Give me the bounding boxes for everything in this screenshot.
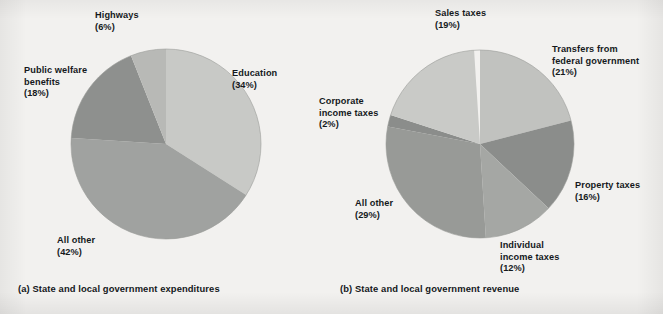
label-public-welfare-pct: (18%) (24, 88, 87, 100)
label-highways-pct: (6%) (95, 22, 139, 34)
label-public-welfare-name-line1: Public welfare (24, 65, 87, 77)
label-individual-name-line2: income taxes (500, 252, 559, 264)
caption-panel-b: (b) State and local government revenue (340, 283, 519, 294)
label-transfers-pct: (21%) (552, 67, 639, 79)
label-all-other-expenditures: All other (42%) (57, 235, 95, 258)
label-property-taxes: Property taxes (16%) (575, 180, 640, 203)
label-property-taxes-name: Property taxes (575, 180, 640, 192)
pie-svg-revenue (385, 49, 575, 239)
label-sales-taxes-pct: (19%) (435, 20, 486, 32)
label-corporate-name-line1: Corporate (319, 96, 378, 108)
label-transfers-federal-government: Transfers from federal government (21%) (552, 44, 639, 79)
label-corporate-pct: (2%) (319, 119, 378, 131)
label-corporate-income-taxes: Corporate income taxes (2%) (319, 96, 378, 131)
label-individual-pct: (12%) (500, 263, 559, 275)
label-corporate-name-line2: income taxes (319, 108, 378, 120)
label-sales-taxes: Sales taxes (19%) (435, 8, 486, 31)
panel-state-local-expenditures: Highways (6%) Public welfare benefits (1… (0, 0, 335, 314)
pie-chart-revenue (385, 49, 575, 239)
label-all-other-pct: (42%) (57, 247, 95, 259)
label-education-pct: (34%) (232, 80, 277, 92)
label-public-welfare-benefits: Public welfare benefits (18%) (24, 65, 87, 100)
panel-state-local-revenue: Sales taxes (19%) Transfers from federal… (335, 0, 663, 314)
label-education: Education (34%) (232, 68, 277, 91)
caption-panel-a: (a) State and local government expenditu… (18, 283, 220, 294)
label-all-other-revenue-pct: (29%) (355, 210, 393, 222)
label-individual-income-taxes: Individual income taxes (12%) (500, 240, 559, 275)
label-individual-name-line1: Individual (500, 240, 559, 252)
label-all-other-revenue: All other (29%) (355, 198, 393, 221)
label-highways: Highways (6%) (95, 10, 139, 33)
label-public-welfare-name-line2: benefits (24, 77, 87, 89)
label-all-other-revenue-name: All other (355, 198, 393, 210)
figure-two-pie-charts: Highways (6%) Public welfare benefits (1… (0, 0, 663, 314)
label-property-taxes-pct: (16%) (575, 192, 640, 204)
pie-slice-all-other-revenue (386, 126, 486, 238)
label-education-name: Education (232, 68, 277, 80)
label-all-other-name: All other (57, 235, 95, 247)
label-transfers-name-line1: Transfers from (552, 44, 639, 56)
label-transfers-name-line2: federal government (552, 56, 639, 68)
label-sales-taxes-name: Sales taxes (435, 8, 486, 20)
label-highways-name: Highways (95, 10, 139, 22)
